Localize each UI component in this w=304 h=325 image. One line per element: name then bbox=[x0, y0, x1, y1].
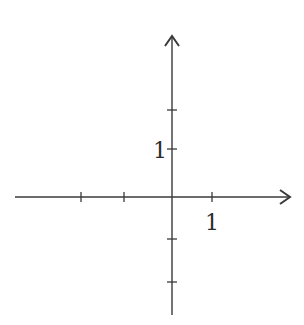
y-axis bbox=[165, 36, 179, 315]
x-axis bbox=[15, 190, 290, 204]
coordinate-axes-diagram: 1 1 bbox=[0, 0, 304, 325]
y-axis-unit-label: 1 bbox=[153, 138, 167, 163]
x-axis-unit-label: 1 bbox=[205, 210, 219, 235]
